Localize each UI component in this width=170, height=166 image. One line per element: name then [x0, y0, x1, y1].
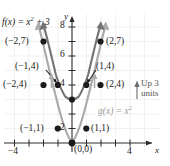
point-label-1-4: (1,4): [96, 62, 114, 72]
function-label-g: g(x) = x2: [98, 105, 132, 117]
point-label-neg2-4: (−2,4): [3, 80, 27, 90]
graph-figure: f(x) = x2 + 3 g(x) = x2 y x 2 4 6 8 −4 4…: [0, 0, 170, 166]
point-label-neg2-7: (−2,7): [5, 37, 29, 47]
point-2-4: [97, 82, 103, 88]
y-tick-label-2: 2: [60, 123, 65, 133]
point-label-1-1: (1,1): [91, 124, 109, 134]
point-1-4: [83, 82, 89, 88]
point-label-neg1-4: (−1,4): [15, 62, 39, 72]
point-label-origin: (0,0): [74, 145, 92, 155]
x-tick-label-4: 4: [127, 147, 132, 157]
point-neg2-4: [40, 82, 46, 88]
y-tick-label-4: 4: [60, 79, 65, 89]
x-tick-label-neg4: −4: [8, 147, 18, 157]
point-1-1: [83, 125, 89, 131]
up-arrow-icon: [134, 81, 139, 100]
x-axis-arrow-icon: [146, 140, 152, 145]
point-label-2-7: (2,7): [106, 37, 124, 47]
shift-annotation-line2: units: [141, 89, 159, 98]
point-2-7: [97, 38, 103, 44]
point-label-neg1-1: (−1,1): [20, 124, 44, 134]
function-label-f: f(x) = x2 + 3: [2, 16, 50, 28]
y-axis-arrow-icon: [69, 16, 74, 22]
x-axis-label: x: [155, 146, 159, 155]
point-neg2-7: [40, 38, 46, 44]
y-tick-label-8: 8: [60, 21, 65, 31]
y-tick-label-6: 6: [60, 50, 65, 60]
point-label-2-4: (2,4): [106, 80, 124, 90]
point-vertex-f: [69, 96, 75, 102]
